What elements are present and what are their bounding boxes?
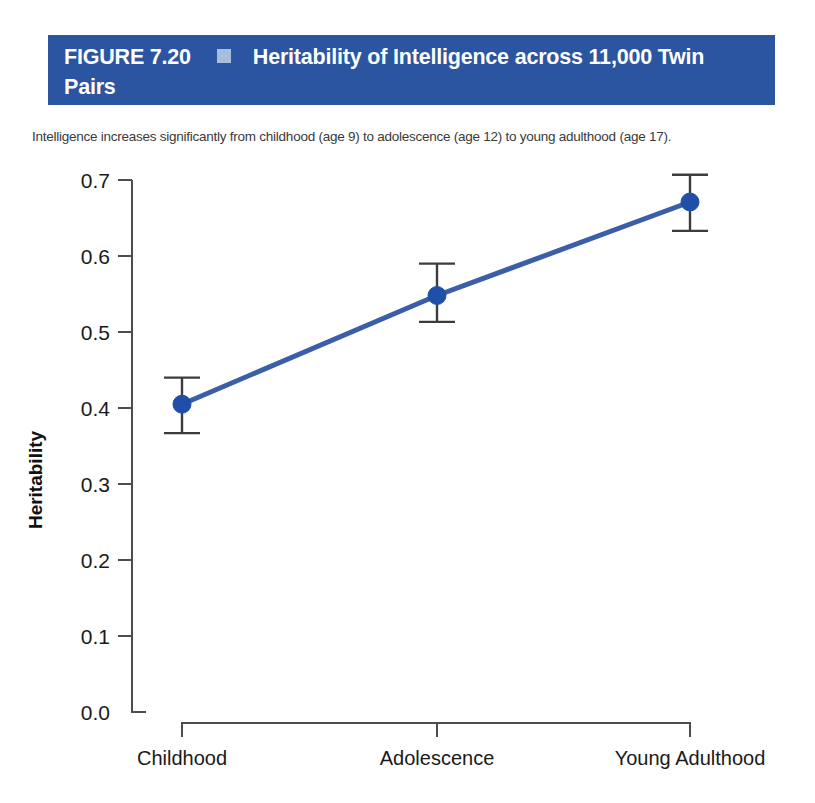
y-tick-label: 0.2 <box>81 549 110 572</box>
y-axis-line <box>132 180 146 712</box>
data-point-childhood <box>173 395 191 413</box>
y-tick-label: 0.6 <box>81 245 110 268</box>
y-tick-label: 0.3 <box>81 473 110 496</box>
square-bullet-icon <box>217 49 231 63</box>
data-point-young-adulthood <box>681 193 699 211</box>
y-tick-label: 0.1 <box>81 625 110 648</box>
x-tick-label: Young Adulthood <box>615 747 766 769</box>
figure-caption: Intelligence increases significantly fro… <box>32 128 772 146</box>
y-axis-tick-labels: 0.7 0.6 0.5 0.4 0.3 0.2 0.1 0.0 <box>81 169 111 724</box>
figure-number: FIGURE 7.20 <box>64 42 191 72</box>
y-axis-label: Heritability <box>25 430 46 529</box>
data-point-adolescence <box>428 287 446 305</box>
y-axis-ticks <box>118 180 132 636</box>
y-tick-label: 0.5 <box>81 321 110 344</box>
figure-header-line: FIGURE 7.20Heritability of Intelligence … <box>64 42 761 102</box>
y-tick-label: 0.7 <box>81 169 110 192</box>
x-tick-label: Childhood <box>137 747 227 769</box>
x-axis-tick-labels: Childhood Adolescence Young Adulthood <box>137 747 765 769</box>
y-tick-label: 0.0 <box>81 701 110 724</box>
figure-header: FIGURE 7.20Heritability of Intelligence … <box>48 35 775 105</box>
x-tick-label: Adolescence <box>380 747 495 769</box>
figure-container: FIGURE 7.20Heritability of Intelligence … <box>0 0 815 803</box>
line-chart-svg: 0.7 0.6 0.5 0.4 0.3 0.2 0.1 0.0 Heritabi… <box>0 150 815 790</box>
y-tick-label: 0.4 <box>81 397 111 420</box>
chart-area: 0.7 0.6 0.5 0.4 0.3 0.2 0.1 0.0 Heritabi… <box>0 150 815 790</box>
